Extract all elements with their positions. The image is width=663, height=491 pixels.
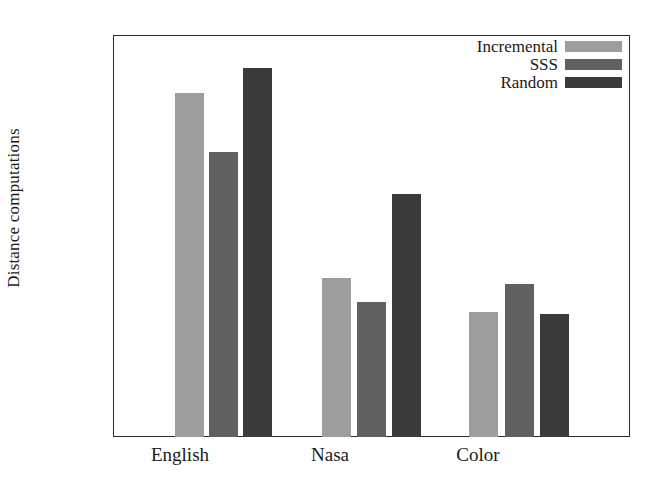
x-tick-label-english: English: [110, 445, 250, 464]
bar-color-sss: [505, 284, 534, 437]
y-axis-title: Distance computations: [4, 0, 24, 418]
chart-legend: Incremental SSS Random: [452, 38, 622, 92]
bars-layer: [113, 35, 630, 437]
bar-nasa-random: [392, 194, 421, 437]
legend-swatch-sss: [565, 59, 622, 70]
bar-nasa-sss: [357, 302, 386, 437]
x-tick-label-nasa: Nasa: [260, 445, 400, 464]
bar-color-random: [540, 314, 569, 437]
bar-english-random: [243, 68, 272, 437]
legend-item-incremental: Incremental: [452, 38, 622, 55]
legend-label-sss: SSS: [530, 56, 558, 73]
legend-item-random: Random: [452, 74, 622, 91]
bar-english-incremental: [175, 93, 204, 437]
legend-swatch-random: [565, 77, 622, 88]
x-tick-label-color: Color: [408, 445, 548, 464]
bar-nasa-incremental: [322, 278, 351, 437]
legend-label-random: Random: [500, 74, 558, 91]
bar-chart-figure: Distance computations 500 400 300 200 10…: [0, 0, 663, 491]
bar-color-incremental: [469, 312, 498, 437]
bar-english-sss: [209, 152, 238, 437]
legend-swatch-incremental: [565, 41, 622, 52]
legend-label-incremental: Incremental: [477, 38, 558, 55]
legend-item-sss: SSS: [452, 56, 622, 73]
